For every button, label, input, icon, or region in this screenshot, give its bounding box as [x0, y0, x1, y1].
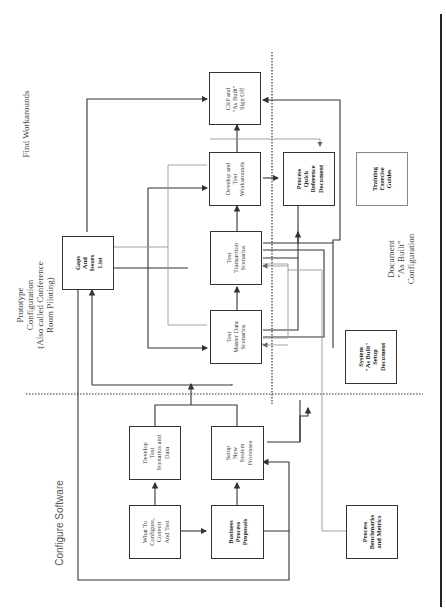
- box-process-quick-ref: Process Quick Reference Document: [283, 152, 335, 206]
- phase-label-document: Document "As Built" Configuration: [386, 219, 418, 299]
- box-business-process: Business Process Proposals: [211, 505, 264, 559]
- box-develop-workarounds: Develop and Test Workarounds: [209, 152, 261, 206]
- phase-label-find: Find Workarounds: [21, 79, 33, 169]
- box-crp-signoff: CRP and "As Built" Sign Off: [209, 72, 261, 125]
- box-gaps-issues: Gaps And Issues List: [62, 236, 114, 290]
- box-training-guides: Training Exercise Guides: [356, 152, 408, 206]
- box-what-to-configure: What To Configure, Convert And Test: [129, 505, 181, 559]
- box-benchmarks: Process Benchmarks and Metrics: [346, 505, 398, 559]
- phase-label-prototype: Prototype Configuration (Also called Con…: [15, 255, 57, 355]
- box-system-as-built: System "As Built" Setup Document: [345, 330, 397, 384]
- box-develop-test-scenarios: Develop Test Scenarios and Data: [129, 426, 181, 480]
- phase-label-configure: Configure Software: [54, 458, 68, 588]
- box-setup-new-system: Setup New System Processes: [211, 426, 264, 480]
- box-test-transaction: Test Transaction Scenarios: [210, 231, 262, 285]
- box-test-master-data: Test Master Data Scenarios: [210, 310, 262, 364]
